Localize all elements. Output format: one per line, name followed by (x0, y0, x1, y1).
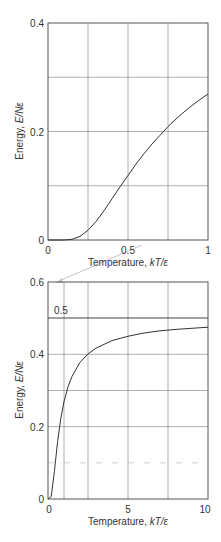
top-gridlines (48, 23, 208, 240)
top-x-axis-label: Temperature, kT/ε (88, 257, 169, 268)
top-xtick-0.5: 0.5 (121, 245, 135, 256)
bottom-chart: 0.5 0.6 0.4 0.2 0 0 5 10 Temperature, kT… (14, 277, 211, 527)
top-ytick-0: 0 (38, 235, 44, 246)
bottom-xtick-10: 10 (199, 504, 211, 515)
limit-line-label: 0.5 (54, 305, 68, 316)
bottom-y-axis-label: Energy, E/Nε (14, 361, 25, 419)
bottom-gridlines (48, 282, 208, 499)
top-xtick-0: 0 (45, 245, 51, 256)
top-xlabel-text: Temperature, (88, 257, 150, 268)
top-xlabel-var: kT/ε (150, 257, 169, 268)
top-xtick-1: 1 (205, 245, 211, 256)
figure: 0.4 0.2 0 0 0.5 1 Temperature, kT/ε Ener… (0, 0, 221, 542)
bottom-x-axis-label: Temperature, kT/ε (88, 516, 169, 527)
bottom-ytick-0.4: 0.4 (30, 349, 44, 360)
bottom-ytick-0: 0 (38, 494, 44, 505)
top-ytick-0.4: 0.4 (30, 18, 44, 29)
bottom-ylabel-var: E/Nε (14, 361, 25, 383)
bottom-ytick-0.2: 0.2 (30, 422, 44, 433)
top-ylabel-text: Energy, (14, 123, 25, 160)
top-ylabel-var: E/Nε (14, 102, 25, 124)
top-ytick-0.2: 0.2 (30, 127, 44, 138)
bottom-ylabel-text: Energy, (14, 382, 25, 419)
top-y-axis-label: Energy, E/Nε (14, 102, 25, 160)
bottom-xlabel-text: Temperature, (88, 516, 150, 527)
bottom-xtick-0: 0 (46, 504, 52, 515)
bottom-xtick-5: 5 (125, 504, 131, 515)
top-chart: 0.4 0.2 0 0 0.5 1 Temperature, kT/ε Ener… (14, 18, 211, 268)
bottom-xlabel-var: kT/ε (150, 516, 169, 527)
bottom-ytick-0.6: 0.6 (30, 277, 44, 288)
